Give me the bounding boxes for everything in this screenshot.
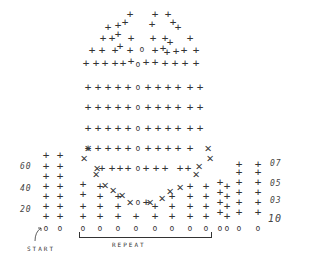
plus-stitch-icon: +	[145, 123, 152, 134]
row-label-05: 05	[270, 179, 282, 188]
row-label-07: 07	[270, 159, 282, 168]
plus-stitch-icon: +	[187, 33, 194, 44]
chain-stitch-icon: o	[44, 223, 49, 234]
plus-stitch-icon: +	[89, 45, 96, 56]
plus-stitch-icon: +	[197, 102, 204, 113]
plus-stitch-icon: +	[165, 143, 172, 154]
chain-stitch-icon: o	[58, 223, 63, 234]
plus-stitch-icon: +	[149, 19, 156, 30]
chain-stitch-icon: o	[237, 223, 242, 234]
plus-stitch-icon: +	[112, 58, 119, 69]
plus-stitch-icon: +	[105, 82, 112, 93]
plus-stitch-icon: +	[43, 211, 50, 222]
plus-stitch-icon: +	[197, 123, 204, 134]
row-label-10: 10	[268, 213, 282, 224]
plus-stitch-icon: +	[197, 82, 204, 93]
cross-stitch-icon: ✕	[126, 197, 133, 208]
plus-stitch-icon: +	[102, 58, 109, 69]
chain-stitch-icon: o	[136, 102, 141, 113]
plus-stitch-icon: +	[152, 211, 159, 222]
plus-stitch-icon: +	[133, 211, 140, 222]
chain-stitch-icon: o	[136, 197, 141, 208]
plus-stitch-icon: +	[105, 123, 112, 134]
plus-stitch-icon: +	[145, 102, 152, 113]
plus-stitch-icon: +	[109, 163, 116, 174]
plus-stitch-icon: +	[105, 102, 112, 113]
repeat-label: REPEAT	[112, 241, 146, 248]
plus-stitch-icon: +	[85, 82, 92, 93]
cross-stitch-icon: ✕	[176, 182, 183, 193]
plus-stitch-icon: +	[162, 58, 169, 69]
plus-stitch-icon: +	[128, 33, 135, 44]
plus-stitch-icon: +	[100, 33, 107, 44]
plus-stitch-icon: +	[217, 207, 224, 218]
plus-stitch-icon: +	[125, 82, 132, 93]
chain-stitch-icon: o	[140, 44, 145, 55]
plus-stitch-icon: +	[175, 22, 182, 33]
cross-stitch-icon: ✕	[206, 153, 213, 164]
chain-stitch-icon: o	[136, 143, 141, 154]
plus-stitch-icon: +	[155, 82, 162, 93]
plus-stitch-icon: +	[95, 123, 102, 134]
plus-stitch-icon: +	[162, 163, 169, 174]
plus-stitch-icon: +	[165, 123, 172, 134]
plus-stitch-icon: +	[80, 211, 87, 222]
start-arrow-icon	[32, 226, 44, 242]
plus-stitch-icon: +	[155, 123, 162, 134]
plus-stitch-icon: +	[95, 82, 102, 93]
repeat-bracket	[79, 232, 212, 238]
plus-stitch-icon: +	[175, 102, 182, 113]
start-label: START	[27, 245, 55, 252]
chain-stitch-icon: o	[136, 59, 141, 70]
plus-stitch-icon: +	[115, 102, 122, 113]
plus-stitch-icon: +	[177, 163, 184, 174]
plus-stitch-icon: +	[143, 163, 150, 174]
plus-stitch-icon: +	[125, 102, 132, 113]
plus-stitch-icon: +	[185, 163, 192, 174]
plus-stitch-icon: +	[143, 57, 150, 68]
plus-stitch-icon: +	[115, 82, 122, 93]
plus-stitch-icon: +	[125, 123, 132, 134]
plus-stitch-icon: +	[115, 143, 122, 154]
plus-stitch-icon: +	[173, 46, 180, 57]
plus-stitch-icon: +	[117, 41, 124, 52]
plus-stitch-icon: +	[145, 82, 152, 93]
plus-stitch-icon: +	[143, 197, 150, 208]
plus-stitch-icon: +	[83, 58, 90, 69]
row-label-20: 20	[20, 205, 32, 214]
plus-stitch-icon: +	[115, 211, 122, 222]
plus-stitch-icon: +	[165, 82, 172, 93]
plus-stitch-icon: +	[85, 123, 92, 134]
plus-stitch-icon: +	[187, 143, 194, 154]
plus-stitch-icon: +	[224, 211, 231, 222]
cross-stitch-icon: ✕	[158, 193, 165, 204]
plus-stitch-icon: +	[97, 211, 104, 222]
plus-stitch-icon: +	[57, 211, 64, 222]
plus-stitch-icon: +	[115, 123, 122, 134]
plus-stitch-icon: +	[181, 45, 188, 56]
plus-stitch-icon: +	[153, 163, 160, 174]
row-label-40: 40	[20, 184, 32, 193]
plus-stitch-icon: +	[182, 58, 189, 69]
plus-stitch-icon: +	[152, 45, 159, 56]
plus-stitch-icon: +	[175, 82, 182, 93]
plus-stitch-icon: +	[145, 143, 152, 154]
plus-stitch-icon: +	[172, 58, 179, 69]
plus-stitch-icon: +	[187, 211, 194, 222]
plus-stitch-icon: +	[152, 57, 159, 68]
plus-stitch-icon: +	[105, 143, 112, 154]
plus-stitch-icon: +	[115, 29, 122, 40]
plus-stitch-icon: +	[99, 163, 106, 174]
chain-stitch-icon: o	[136, 163, 141, 174]
plus-stitch-icon: +	[169, 211, 176, 222]
plus-stitch-icon: +	[155, 143, 162, 154]
plus-stitch-icon: +	[128, 56, 135, 67]
plus-stitch-icon: +	[117, 163, 124, 174]
plus-stitch-icon: +	[165, 102, 172, 113]
cross-stitch-icon: ✕	[80, 153, 87, 164]
plus-stitch-icon: +	[155, 102, 162, 113]
plus-stitch-icon: +	[122, 17, 129, 28]
plus-stitch-icon: +	[150, 33, 157, 44]
plus-stitch-icon: +	[187, 102, 194, 113]
plus-stitch-icon: +	[236, 207, 243, 218]
